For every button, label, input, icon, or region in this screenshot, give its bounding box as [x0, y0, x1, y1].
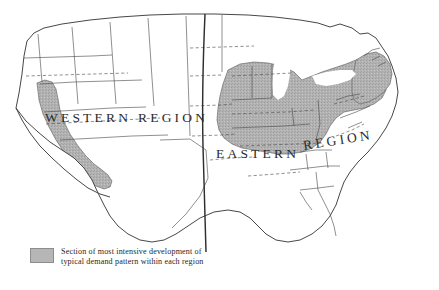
label-eastern-region-word1: EASTERN [216, 146, 299, 161]
legend-text: Section of most intensive development of… [61, 247, 204, 266]
national-boundary [16, 14, 398, 242]
legend-line-2: typical demand pattern within each regio… [61, 257, 204, 267]
legend-swatch-shaded [30, 248, 54, 263]
map-figure: WESTERN REGION EASTERN REGION Section of… [0, 0, 439, 290]
shaded-area-california [37, 80, 112, 189]
label-western-region-word2: REGION [138, 110, 208, 125]
legend-line-1: Section of most intensive development of [61, 247, 204, 257]
label-western-region-word1: WESTERN [45, 110, 131, 125]
legend: Section of most intensive development of… [30, 247, 204, 266]
